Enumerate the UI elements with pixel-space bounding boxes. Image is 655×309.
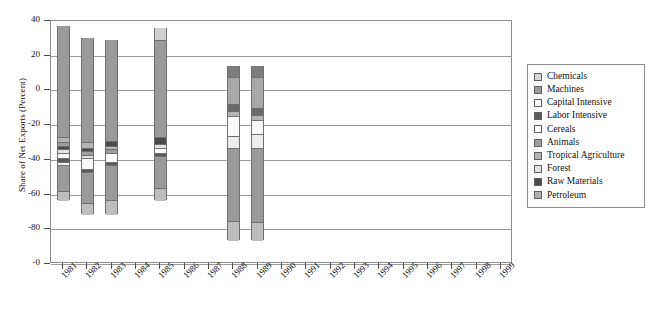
chart-root: Share of Net Exports (Percent) 40200-20-… xyxy=(0,0,655,309)
y-axis-tick xyxy=(44,263,50,264)
y-axis-label: 0 xyxy=(0,83,40,93)
legend-label: Animals xyxy=(547,138,579,148)
legend-swatch-icon xyxy=(534,178,542,186)
legend-swatch-icon xyxy=(534,125,542,133)
bar-segment xyxy=(228,116,239,136)
bar-segment xyxy=(252,66,263,76)
bar-segment xyxy=(58,191,69,201)
y-axis-label: 20 xyxy=(0,49,40,59)
legend-item[interactable]: Petroleum xyxy=(534,189,639,202)
stacked-bar xyxy=(57,26,70,200)
legend-swatch-icon xyxy=(534,73,542,81)
y-axis-tick xyxy=(44,228,50,229)
bar-segment xyxy=(106,165,117,201)
bar-segment xyxy=(252,134,263,149)
stacked-bar xyxy=(81,38,94,213)
stacked-bar xyxy=(154,28,167,200)
chart-legend: ChemicalsMachinesCapital IntensiveLabor … xyxy=(527,64,645,208)
legend-label: Labor Intensive xyxy=(547,111,607,121)
bar-segment xyxy=(106,40,117,141)
plot-area xyxy=(50,20,512,263)
y-axis-tick xyxy=(44,159,50,160)
y-axis-tick xyxy=(44,124,50,125)
bar-segment xyxy=(58,165,69,192)
legend-item[interactable]: Forest xyxy=(534,162,639,175)
legend-item[interactable]: Cereals xyxy=(534,123,639,136)
legend-item[interactable]: Machines xyxy=(534,83,639,96)
legend-swatch-icon xyxy=(534,152,542,160)
bar-segment xyxy=(252,148,263,224)
y-axis-tick xyxy=(44,89,50,90)
stacked-bar xyxy=(251,66,264,240)
bar-segment xyxy=(228,136,239,149)
bar-segment xyxy=(82,38,93,142)
legend-label: Capital Intensive xyxy=(547,98,612,108)
bar-segment xyxy=(155,28,166,40)
legend-swatch-icon xyxy=(534,86,542,94)
legend-swatch-icon xyxy=(534,99,542,107)
legend-item[interactable]: Raw Materials xyxy=(534,176,639,189)
bar-segment xyxy=(252,222,263,240)
bar-segment xyxy=(228,77,239,106)
bar-segment xyxy=(228,66,239,76)
bar-segment xyxy=(155,188,166,201)
legend-label: Raw Materials xyxy=(547,177,603,187)
legend-item[interactable]: Capital Intensive xyxy=(534,96,639,109)
legend-swatch-icon xyxy=(534,165,542,173)
legend-swatch-icon xyxy=(534,139,542,147)
y-axis-tick xyxy=(44,20,50,21)
legend-item[interactable]: Labor Intensive xyxy=(534,110,639,123)
legend-swatch-icon xyxy=(534,112,542,120)
bar-segment xyxy=(58,26,69,137)
y-axis-label: 40 xyxy=(0,14,40,24)
y-axis-title: Share of Net Exports (Percent) xyxy=(17,45,27,225)
bar-segment xyxy=(155,40,166,138)
y-axis-label: -40 xyxy=(0,153,40,163)
bar-segment xyxy=(252,120,263,135)
y-axis-label: -80 xyxy=(0,222,40,232)
bar-segment xyxy=(82,203,93,214)
legend-item[interactable]: Animals xyxy=(534,136,639,149)
bar-segment xyxy=(228,148,239,222)
stacked-bar xyxy=(227,66,240,240)
legend-label: Petroleum xyxy=(547,191,586,201)
bar-segment xyxy=(82,172,93,204)
legend-swatch-icon xyxy=(534,191,542,199)
y-axis-label: -20 xyxy=(0,118,40,128)
bar-segment xyxy=(155,156,166,188)
y-axis-label: -60 xyxy=(0,188,40,198)
bar-segment xyxy=(106,200,117,215)
stacked-bar xyxy=(105,40,118,214)
bar-segment xyxy=(228,221,239,241)
legend-label: Machines xyxy=(547,85,584,95)
bar-segment xyxy=(252,77,263,109)
legend-item[interactable]: Tropical Agriculture xyxy=(534,149,639,162)
y-axis-tick xyxy=(44,55,50,56)
bar-series xyxy=(51,21,511,262)
legend-label: Chemicals xyxy=(547,72,587,82)
legend-item[interactable]: Chemicals xyxy=(534,70,639,83)
y-axis-label: -0 xyxy=(0,257,40,267)
legend-label: Cereals xyxy=(547,125,576,135)
y-axis-tick xyxy=(44,194,50,195)
legend-label: Tropical Agriculture xyxy=(547,151,624,161)
legend-label: Forest xyxy=(547,164,571,174)
